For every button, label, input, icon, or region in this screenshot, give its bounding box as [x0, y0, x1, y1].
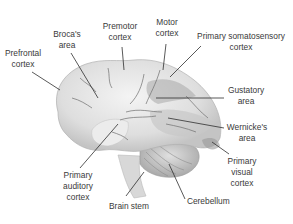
- label-primary-visual-cortex: Primary visual cortex: [226, 155, 258, 188]
- label-wernickes-area: Wernicke's area: [227, 121, 267, 143]
- label-brain-stem: Brain stem: [109, 200, 149, 211]
- label-brocas-area: Broca's area: [52, 28, 82, 50]
- label-gustatory-area: Gustatory area: [227, 84, 266, 106]
- cerebrum-shape: [56, 60, 220, 152]
- label-primary-auditory-cortex: Primary auditory cortex: [60, 169, 95, 202]
- label-motor-cortex: Motor cortex: [154, 16, 180, 38]
- label-prefrontal-cortex: Prefrontal cortex: [5, 47, 42, 69]
- label-premotor-cortex: Premotor cortex: [102, 20, 137, 42]
- label-primary-somatosensory-cortex: Primary somatosensory cortex: [196, 30, 286, 52]
- label-cerebellum: Cerebellum: [187, 195, 229, 206]
